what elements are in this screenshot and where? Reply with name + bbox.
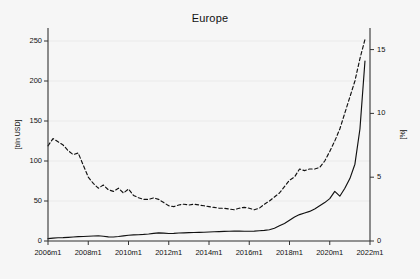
y-tick-left: 200 (8, 76, 42, 85)
y-tick-right: 5 (377, 172, 381, 181)
y-tick-left: 0 (8, 236, 42, 245)
chart-figure: Europe [bln USD] [%] 0501001502002500510… (0, 0, 420, 279)
gridlines (48, 41, 370, 241)
y-tick-right: 15 (377, 45, 385, 54)
axis-ticks (44, 41, 374, 245)
series-line-volume (48, 61, 365, 239)
y-tick-left: 250 (8, 36, 42, 45)
y-tick-left: 50 (8, 196, 42, 205)
data-series-layer (48, 39, 365, 238)
y-tick-right: 0 (377, 236, 381, 245)
y-tick-left: 150 (8, 116, 42, 125)
y-tick-left: 100 (8, 156, 42, 165)
y-tick-right: 10 (377, 108, 385, 117)
series-line-share (48, 39, 365, 209)
axis-lines (48, 28, 370, 241)
x-tick: 2022m1 (344, 248, 396, 257)
plot-area (0, 0, 420, 279)
